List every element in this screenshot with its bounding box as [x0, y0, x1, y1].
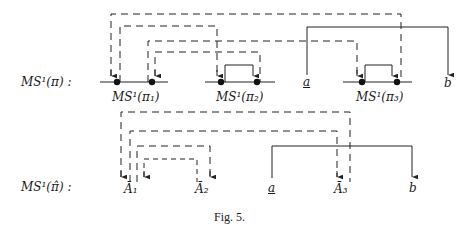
node-a3: Ā₃ [334, 183, 347, 195]
node-dot [359, 79, 365, 85]
figure-caption: Fig. 5. [214, 211, 245, 223]
node-b-top: b [444, 77, 452, 89]
node-dot [254, 79, 260, 85]
node-dot [114, 79, 120, 85]
label-ms-pi2: MS¹(π₂) [216, 91, 263, 103]
node-a-top: a [303, 76, 310, 88]
diagram-lines [0, 0, 466, 234]
node-a2: Ā₂ [195, 183, 208, 195]
figure-canvas: MS¹(π) : MS¹(π̂) : MS¹(π₁) MS¹(π₂) MS¹(π… [0, 0, 466, 234]
node-a-bottom: a [268, 182, 275, 194]
row-label-ms-pi: MS¹(π) : [21, 76, 71, 88]
row-label-ms-pi-hat: MS¹(π̂) : [21, 181, 71, 193]
node-b-bottom: b [409, 182, 417, 194]
node-dot [218, 79, 224, 85]
label-ms-pi3: MS¹(π₃) [356, 91, 403, 103]
label-ms-pi1: MS¹(π₁) [112, 91, 159, 103]
node-dot [394, 79, 400, 85]
node-a1: Ā₁ [124, 183, 137, 195]
node-dot [149, 79, 155, 85]
